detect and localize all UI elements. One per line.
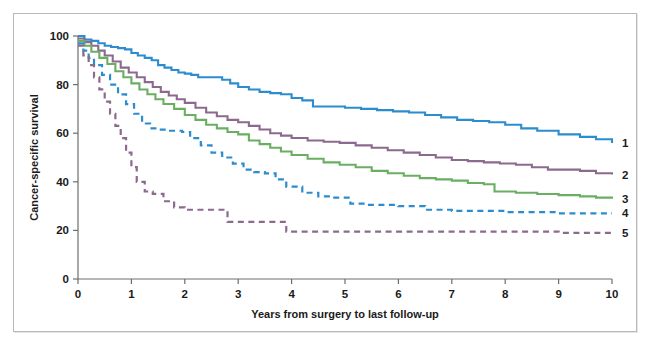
- x-tick-label: 6: [395, 288, 401, 300]
- kaplan-meier-figure: 012345678910020406080100Years from surge…: [0, 0, 650, 349]
- series-label-3: 3: [622, 193, 628, 205]
- x-axis-title: Years from surgery to last follow-up: [251, 308, 439, 320]
- x-tick-label: 8: [502, 288, 509, 300]
- x-tick-label: 0: [75, 288, 81, 300]
- y-tick-label: 80: [56, 79, 69, 91]
- x-tick-label: 2: [182, 288, 188, 300]
- series-label-5: 5: [622, 227, 629, 239]
- series-line-5: [78, 46, 612, 233]
- x-tick-label: 3: [235, 288, 241, 300]
- survival-chart: 012345678910020406080100Years from surge…: [0, 0, 650, 349]
- x-tick-label: 9: [555, 288, 561, 300]
- x-tick-label: 7: [449, 288, 455, 300]
- series-line-1: [78, 36, 612, 143]
- y-tick-label: 60: [56, 127, 69, 139]
- y-tick-label: 0: [63, 273, 69, 285]
- y-tick-label: 20: [56, 224, 69, 236]
- x-tick-label: 1: [128, 288, 135, 300]
- series-label-4: 4: [622, 207, 629, 219]
- x-tick-label: 5: [342, 288, 349, 300]
- x-tick-label: 4: [288, 288, 295, 300]
- y-tick-label: 40: [56, 176, 69, 188]
- y-axis-title: Cancer-specific survival: [28, 94, 40, 221]
- x-tick-label: 10: [606, 288, 619, 300]
- series-label-2: 2: [622, 169, 628, 181]
- y-tick-label: 100: [50, 30, 69, 42]
- series-label-1: 1: [622, 137, 629, 149]
